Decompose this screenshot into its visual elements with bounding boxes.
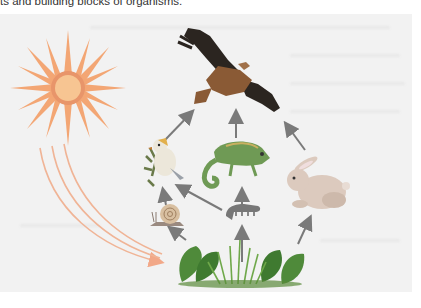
eagle-icon (178, 28, 280, 112)
food-web-arrows (163, 112, 310, 262)
rabbit-icon (287, 154, 350, 209)
chameleon-icon (204, 142, 270, 187)
caption-text: ts and building blocks of organisms. (0, 0, 182, 7)
energy-arrows (40, 144, 162, 262)
caterpillar-icon (226, 204, 260, 220)
sun-icon (10, 30, 126, 146)
snail-icon (150, 204, 184, 226)
bird-icon (144, 138, 184, 186)
food-web-figure (0, 14, 412, 292)
